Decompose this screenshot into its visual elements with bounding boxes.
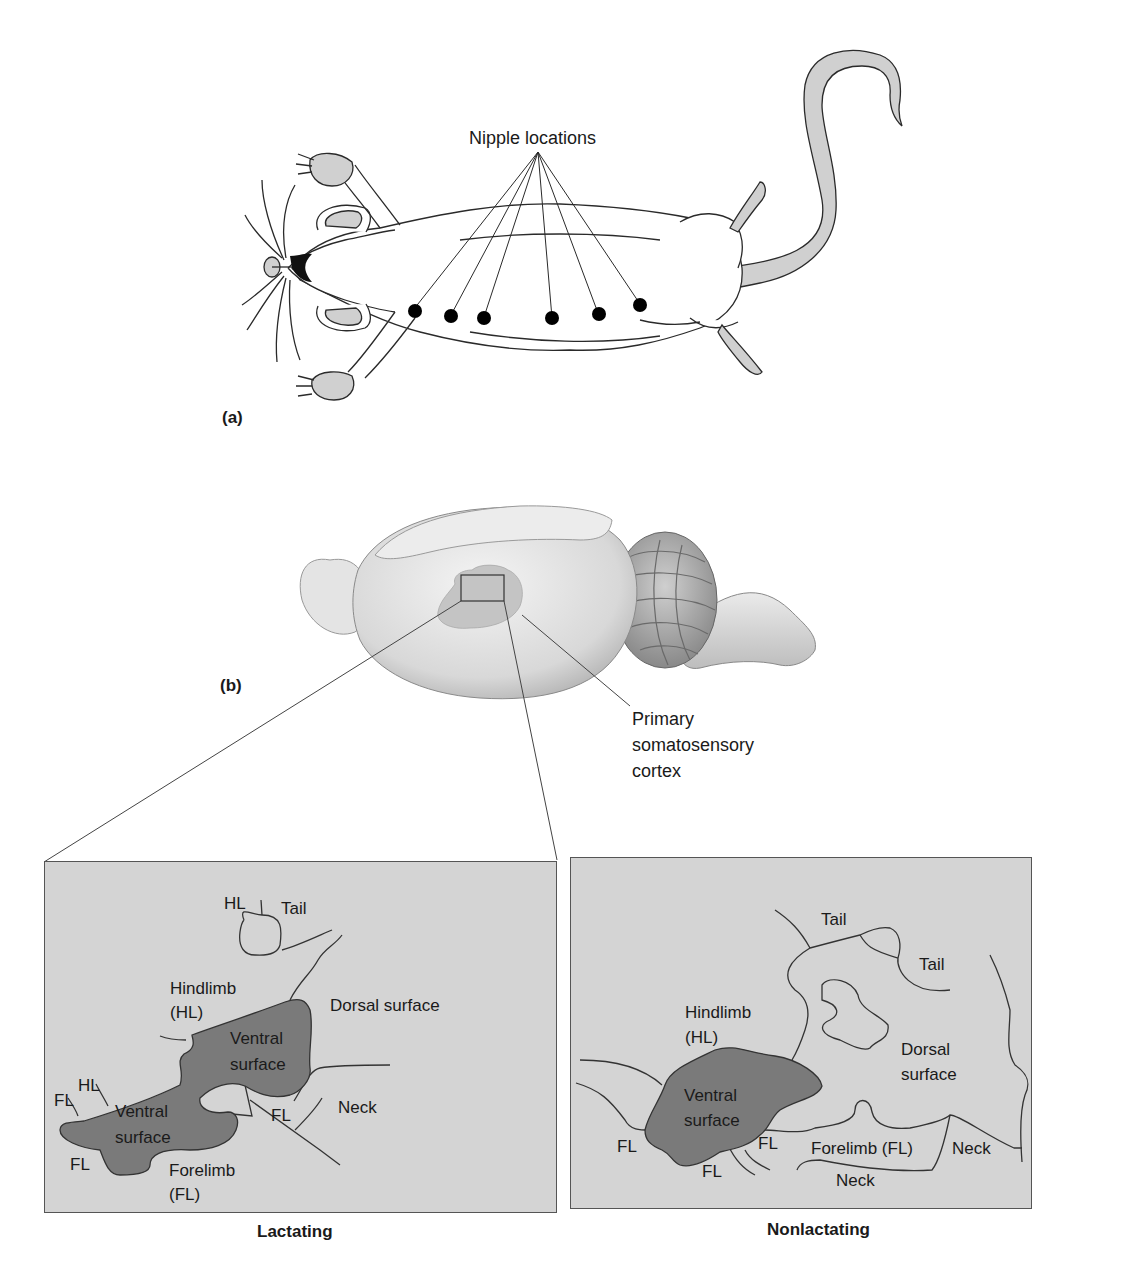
nonlact-fl-left: FL bbox=[617, 1136, 637, 1157]
nonlact-neck-right: Neck bbox=[952, 1138, 991, 1159]
nonlact-ventral: Ventral surface bbox=[684, 1083, 740, 1133]
nonlact-tail-2: Tail bbox=[919, 954, 945, 975]
nonlact-forelimb: Forelimb (FL) bbox=[811, 1138, 913, 1159]
nonlact-dorsal: Dorsal surface bbox=[901, 1037, 957, 1087]
nonlact-hindlimb: Hindlimb (HL) bbox=[685, 1000, 751, 1050]
nonlact-tail-1: Tail bbox=[821, 909, 847, 930]
nonlactating-map-lines bbox=[0, 0, 1137, 1263]
nonlact-fl-mid: FL bbox=[758, 1133, 778, 1154]
nonlact-fl-bottom: FL bbox=[702, 1161, 722, 1182]
caption-nonlactating: Nonlactating bbox=[767, 1220, 870, 1240]
nonlact-neck-bottom: Neck bbox=[836, 1170, 875, 1191]
